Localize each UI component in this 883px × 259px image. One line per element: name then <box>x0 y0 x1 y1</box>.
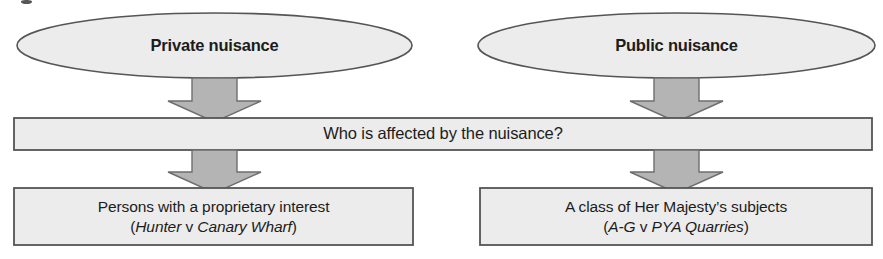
arrow-question-to-outcome-right <box>630 150 723 193</box>
ellipse-private-nuisance[interactable] <box>17 13 412 78</box>
outcome-box-left[interactable] <box>14 188 413 245</box>
arrow-question-to-outcome-left <box>168 150 261 193</box>
arrow-public-to-question <box>630 78 723 122</box>
outcome-box-right[interactable] <box>480 188 872 245</box>
arrow-private-to-question <box>168 78 261 122</box>
question-bar[interactable] <box>14 118 872 150</box>
ellipse-public-nuisance[interactable] <box>478 13 875 78</box>
diagram-canvas <box>0 0 883 259</box>
